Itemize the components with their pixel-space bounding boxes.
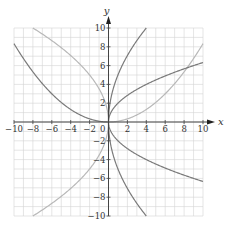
y-tick-label: 2 bbox=[100, 98, 105, 108]
origin-label: 0 bbox=[100, 124, 105, 134]
x-tick-label: 8 bbox=[181, 124, 186, 134]
x-tick-label: 10 bbox=[198, 124, 209, 134]
y-tick-label: 6 bbox=[100, 61, 105, 71]
y-tick-label: −2 bbox=[93, 136, 106, 146]
axes bbox=[14, 16, 215, 216]
x-tick-label: −2 bbox=[83, 124, 96, 134]
x-tick-label: −6 bbox=[46, 124, 59, 134]
x-axis-label: x bbox=[218, 116, 224, 127]
chart: −10−8−6−4−2246810−10−8−6−4−22468100xy bbox=[0, 0, 225, 225]
x-tick-label: −10 bbox=[5, 124, 23, 134]
y-tick-label: −8 bbox=[93, 192, 106, 202]
x-tick-label: 2 bbox=[125, 124, 130, 134]
y-tick-label: −4 bbox=[93, 155, 106, 165]
x-tick-label: 6 bbox=[162, 124, 167, 134]
y-tick-label: 4 bbox=[100, 79, 105, 89]
x-tick-label: 4 bbox=[144, 124, 149, 134]
plot-area: −10−8−6−4−2246810−10−8−6−4−22468100xy bbox=[0, 0, 225, 225]
y-tick-label: 8 bbox=[100, 42, 105, 52]
x-tick-label: −4 bbox=[64, 124, 77, 134]
y-tick-label: −6 bbox=[93, 173, 106, 183]
y-axis-arrow-icon bbox=[106, 16, 111, 24]
y-axis-label: y bbox=[103, 5, 110, 16]
y-tick-label: 10 bbox=[95, 23, 106, 33]
y-tick-label: −10 bbox=[88, 211, 106, 221]
x-tick-label: −8 bbox=[27, 124, 40, 134]
